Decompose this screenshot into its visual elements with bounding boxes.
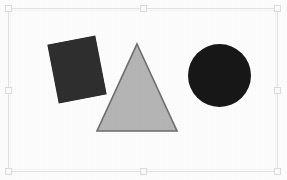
shape-circle[interactable]: Circle	[188, 44, 251, 107]
shape-circle-label: Circle	[188, 44, 189, 45]
triangle-icon	[95, 42, 179, 133]
shape-triangle[interactable]: Triangle	[95, 42, 179, 133]
drawing-canvas[interactable]: Square Triangle Circle	[9, 9, 277, 171]
shape-square-label: Square	[48, 45, 49, 46]
shapes-canvas-app: Square Triangle Circle	[0, 0, 287, 180]
shape-triangle-label: Triangle	[95, 133, 96, 134]
